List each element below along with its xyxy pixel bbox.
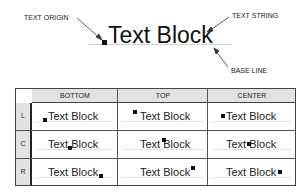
cell-top-center: Text Block <box>140 139 190 150</box>
column-header-center: CENTER <box>208 89 296 103</box>
cell-top-left: Text Block <box>140 111 190 122</box>
cell-center-left: Text Block <box>226 111 276 122</box>
cell-top-right: Text Block <box>140 167 190 178</box>
row-label-c: C <box>16 140 30 147</box>
row-label-l: L <box>16 112 30 119</box>
origin-marker-center-left <box>221 114 225 118</box>
grid-line <box>207 89 208 185</box>
column-header-top: TOP <box>118 89 208 103</box>
cell-center-right: Text Block <box>226 167 276 178</box>
grid-line <box>16 158 295 159</box>
origin-marker-bottom-left <box>43 118 47 122</box>
origin-marker-top-left <box>133 110 137 114</box>
origin-marker-bottom-right <box>99 174 103 178</box>
row-label-r: R <box>16 168 30 175</box>
column-header-bottom: BOTTOM <box>32 89 118 103</box>
origin-marker-center-right <box>278 170 282 174</box>
grid-line <box>16 130 295 131</box>
grid-line <box>117 89 118 185</box>
cell-bottom-center: Text Block <box>48 139 98 150</box>
cell-center-center: Text Block <box>226 139 276 150</box>
cell-bottom-left: Text Block <box>48 111 98 122</box>
alignment-table: BOTTOM TOP CENTER L C R Text Block Text … <box>15 88 296 186</box>
cell-bottom-right: Text Block <box>48 167 98 178</box>
origin-marker-top-right <box>191 166 195 170</box>
